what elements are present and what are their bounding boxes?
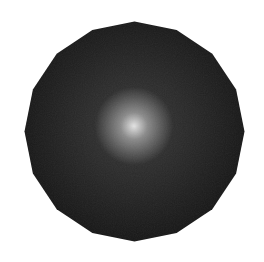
sphere-render: [0, 0, 264, 262]
render-canvas: [0, 0, 264, 262]
sphere-noise-overlay: [25, 22, 245, 242]
